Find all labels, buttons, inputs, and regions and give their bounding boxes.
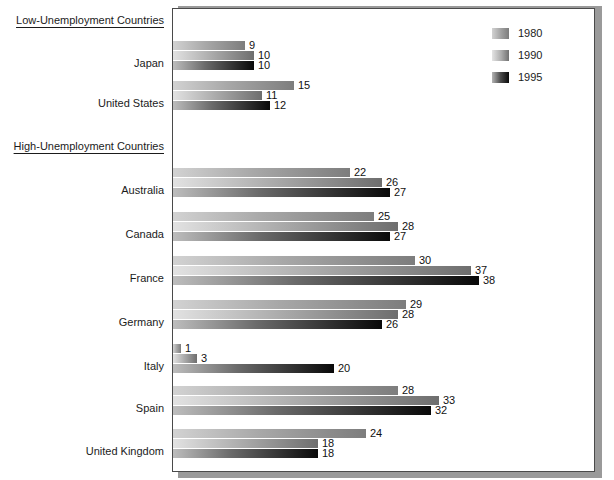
bar-value-united-kingdom-1995: 18 bbox=[322, 448, 334, 459]
bar-value-united-kingdom-1980: 24 bbox=[370, 428, 382, 439]
bar-canada-1995 bbox=[173, 232, 390, 241]
bar-canada-1980 bbox=[173, 212, 374, 221]
legend-entry-1990: 1990 bbox=[492, 47, 584, 64]
category-label-japan: Japan bbox=[134, 58, 164, 69]
bar-canada-1990 bbox=[173, 222, 398, 231]
bar-value-france-1980: 30 bbox=[419, 255, 431, 266]
bar-italy-1990 bbox=[173, 354, 197, 363]
bar-value-italy-1980: 1 bbox=[185, 343, 191, 354]
bar-value-germany-1990: 28 bbox=[402, 309, 414, 320]
legend-entry-1995: 1995 bbox=[492, 69, 584, 86]
bar-value-italy-1995: 20 bbox=[338, 363, 350, 374]
bar-italy-1995 bbox=[173, 364, 334, 373]
bar-value-australia-1980: 22 bbox=[354, 167, 366, 178]
legend-swatch-1995-icon bbox=[492, 72, 509, 83]
group-heading-high-unemployment: High-Unemployment Countries bbox=[14, 140, 164, 152]
bar-value-canada-1995: 27 bbox=[394, 231, 406, 242]
bar-united-kingdom-1995 bbox=[173, 449, 318, 458]
bar-spain-1980 bbox=[173, 386, 398, 395]
category-label-united-kingdom: United Kingdom bbox=[86, 446, 164, 457]
bar-value-spain-1980: 28 bbox=[402, 385, 414, 396]
category-label-germany: Germany bbox=[119, 317, 164, 328]
bar-value-united-states-1995: 12 bbox=[274, 100, 286, 111]
bar-japan-1980 bbox=[173, 41, 245, 50]
bar-united-kingdom-1980 bbox=[173, 429, 366, 438]
category-label-spain: Spain bbox=[136, 403, 164, 414]
legend-label-1995: 1995 bbox=[518, 72, 542, 83]
bar-spain-1995 bbox=[173, 406, 431, 415]
bar-australia-1980 bbox=[173, 168, 350, 177]
bar-value-spain-1995: 32 bbox=[435, 405, 447, 416]
bar-australia-1990 bbox=[173, 178, 382, 187]
bar-value-united-states-1980: 15 bbox=[298, 80, 310, 91]
bar-italy-1980 bbox=[173, 344, 181, 353]
legend-entry-1980: 1980 bbox=[492, 25, 584, 42]
bar-australia-1995 bbox=[173, 188, 390, 197]
legend-label-1980: 1980 bbox=[518, 28, 542, 39]
unemployment-bar-chart-figure: Low-Unemployment Countries Japan United … bbox=[0, 0, 614, 480]
category-label-gutter: Low-Unemployment Countries Japan United … bbox=[0, 0, 172, 480]
bar-spain-1990 bbox=[173, 396, 439, 405]
bar-japan-1995 bbox=[173, 61, 254, 70]
bar-united-kingdom-1990 bbox=[173, 439, 318, 448]
bar-germany-1980 bbox=[173, 300, 406, 309]
category-label-canada: Canada bbox=[125, 229, 164, 240]
bar-value-germany-1995: 26 bbox=[386, 319, 398, 330]
bar-value-canada-1980: 25 bbox=[378, 211, 390, 222]
category-label-france: France bbox=[130, 273, 164, 284]
bar-value-italy-1990: 3 bbox=[201, 353, 207, 364]
bar-united-states-1995 bbox=[173, 101, 270, 110]
legend-swatch-1980-icon bbox=[492, 28, 509, 39]
bar-value-japan-1980: 9 bbox=[249, 40, 255, 51]
bar-value-japan-1995: 10 bbox=[258, 60, 270, 71]
group-heading-low-unemployment: Low-Unemployment Countries bbox=[16, 14, 164, 26]
category-label-united-states: United States bbox=[98, 98, 164, 109]
legend-swatch-1990-icon bbox=[492, 50, 509, 61]
bar-germany-1990 bbox=[173, 310, 398, 319]
plot-frame: 9101015111222262725282730373829282613202… bbox=[172, 8, 595, 472]
bar-value-france-1995: 38 bbox=[483, 275, 495, 286]
bar-france-1990 bbox=[173, 266, 471, 275]
bar-value-australia-1995: 27 bbox=[394, 187, 406, 198]
legend-label-1990: 1990 bbox=[518, 50, 542, 61]
bar-germany-1995 bbox=[173, 320, 382, 329]
bar-france-1995 bbox=[173, 276, 479, 285]
category-label-australia: Australia bbox=[121, 185, 164, 196]
category-label-italy: Italy bbox=[144, 361, 164, 372]
bar-japan-1990 bbox=[173, 51, 254, 60]
bar-france-1980 bbox=[173, 256, 415, 265]
legend: 1980 1990 1995 bbox=[492, 25, 584, 91]
bar-united-states-1990 bbox=[173, 91, 262, 100]
